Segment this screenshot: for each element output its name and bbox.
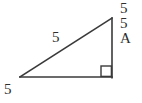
label-side-right-middle: 5 [120, 16, 128, 31]
label-base: 5 [4, 82, 12, 97]
label-angle-a: A [120, 31, 131, 46]
label-side-right-top: 5 [120, 1, 128, 16]
triangle-hypotenuse-side [20, 18, 112, 77]
right-triangle-figure: 5 5 A 5 5 [0, 0, 142, 103]
right-angle-marker-icon [101, 66, 111, 76]
label-hypotenuse: 5 [52, 30, 60, 45]
